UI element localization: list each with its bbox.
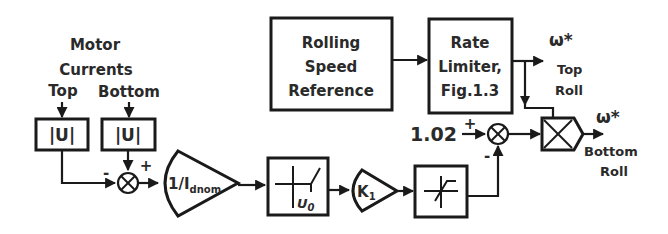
top-roll-label-line1: Top — [557, 62, 582, 77]
rate-limiter-line2: Limiter, — [438, 58, 502, 76]
constant-1-02: 1.02 — [410, 123, 457, 145]
motor-currents-label-line1: Motor — [70, 36, 121, 54]
bottom-roll-omega: ω* — [596, 107, 620, 127]
multiplier-block — [542, 118, 583, 150]
gain-k-subscript: 1 — [369, 191, 376, 202]
motor-currents-label-line2: Currents — [59, 61, 133, 79]
rolling-speed-line2: Speed — [305, 58, 358, 76]
wire-saturation-to-sum2 — [467, 146, 498, 196]
rate-limiter-line3: Fig.1.3 — [441, 82, 499, 100]
dead-zone-param-subscript: 0 — [308, 202, 315, 213]
top-roll-label-line2: Roll — [555, 83, 583, 98]
dead-zone-block: U0 — [268, 158, 328, 215]
rolling-speed-line3: Reference — [288, 82, 374, 100]
top-roll-omega: ω* — [549, 30, 573, 50]
k1-gain: K1 — [353, 170, 397, 211]
abs-block-bottom-label: |U| — [115, 125, 141, 145]
sum1-minus-sign: - — [103, 164, 109, 182]
bottom-current-label: Bottom — [98, 83, 160, 101]
summing-junction-1 — [118, 173, 138, 193]
top-current-label: Top — [48, 82, 78, 100]
rate-limiter-line1: Rate — [450, 34, 489, 52]
rate-limiter-block: Rate Limiter, Fig.1.3 — [429, 19, 512, 113]
summing-junction-2 — [488, 124, 508, 144]
gain-inverse-main: 1/I — [168, 175, 190, 193]
rolling-speed-reference-block: Rolling Speed Reference — [271, 18, 392, 110]
dead-zone-param: U — [297, 196, 308, 211]
gain-inverse-subscript: dnom — [190, 184, 222, 195]
abs-block-top: |U| — [36, 119, 88, 150]
abs-block-top-label: |U| — [49, 125, 75, 145]
sum1-plus-sign: + — [140, 157, 153, 175]
saturation-block — [415, 166, 467, 217]
sum2-plus-sign: + — [464, 115, 477, 133]
arrowhead-branch — [520, 96, 530, 106]
abs-block-bottom: |U| — [102, 119, 155, 150]
speed-correction-block-diagram: Motor Currents Top Bottom |U| |U| - + 1/… — [0, 0, 668, 234]
bottom-roll-label-line1: Bottom — [584, 144, 638, 159]
inverse-nominal-current-gain: 1/Idnom — [165, 151, 238, 216]
wire-limiter-to-multiplier — [525, 61, 553, 118]
rolling-speed-line1: Rolling — [302, 34, 361, 52]
bottom-roll-label-line2: Roll — [600, 164, 628, 179]
sum2-minus-sign: - — [484, 147, 490, 165]
